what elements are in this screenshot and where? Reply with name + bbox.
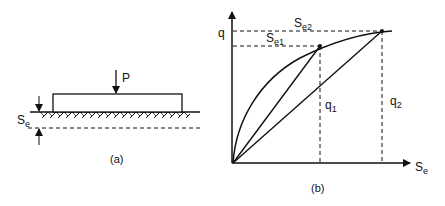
- x-axis-label: Se: [415, 160, 428, 176]
- settlement-label: Se: [17, 113, 30, 129]
- secant-line-2: [233, 31, 382, 163]
- load-settlement-curve: [233, 31, 392, 163]
- se2-label: Se2: [294, 16, 312, 32]
- footing: [53, 94, 182, 112]
- panel-b-caption: (b): [311, 182, 324, 194]
- q1-label: q1: [325, 98, 337, 114]
- load-label: P: [122, 71, 130, 85]
- point-1: [318, 44, 322, 48]
- panel-a-footing-diagram: P Se (a): [17, 70, 200, 165]
- secant-line-1: [233, 46, 320, 163]
- se1-label: Se1: [266, 31, 284, 47]
- soil-hatch: [40, 112, 190, 118]
- point-2: [380, 29, 384, 33]
- panel-b-load-settlement-graph: q Se Se2 Se1 q1 q2 (b): [218, 12, 428, 194]
- y-axis-label: q: [218, 26, 225, 40]
- panel-a-caption: (a): [110, 153, 123, 165]
- diagram-canvas: P Se (a) q Se Se2 Se1 q1 q2 (b): [0, 0, 445, 206]
- q2-label: q2: [390, 94, 402, 110]
